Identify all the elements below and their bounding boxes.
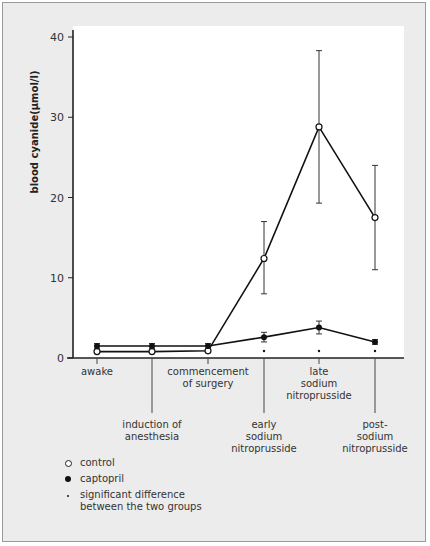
data-point <box>261 255 267 261</box>
y-tick-label: 20 <box>50 192 64 205</box>
significance-marker <box>374 350 376 352</box>
legend-label: control <box>80 457 230 469</box>
data-point <box>94 343 100 349</box>
y-tick-label: 10 <box>50 272 64 285</box>
legend-item-significance: significant difference between the two g… <box>64 489 230 513</box>
data-point <box>316 325 322 331</box>
filled-circle-icon <box>64 473 80 485</box>
small-dot-icon <box>64 489 80 501</box>
y-tick-label: 40 <box>50 31 64 44</box>
legend-label: captopril <box>80 473 230 485</box>
data-point <box>372 215 378 221</box>
significance-marker <box>263 350 265 352</box>
x-tick-label: latesodiumnitroprusside <box>286 366 352 401</box>
data-point <box>205 343 211 349</box>
plot-area <box>73 26 404 358</box>
data-point <box>372 339 378 345</box>
x-tick-label: awake <box>81 366 113 377</box>
x-tick-label: induction ofanesthesia <box>122 419 182 442</box>
significance-marker <box>318 350 320 352</box>
x-tick-label: commencementof surgery <box>167 366 248 389</box>
y-tick-label: 0 <box>57 352 64 365</box>
data-point <box>94 349 100 355</box>
x-tick-label: post-sodiumnitroprusside <box>342 419 408 454</box>
y-axis-label: blood cyanide(µmol/l) <box>29 71 40 194</box>
data-point <box>149 349 155 355</box>
y-tick-label: 30 <box>50 111 64 124</box>
legend-label: significant difference between the two g… <box>80 489 230 513</box>
legend-item-control: control <box>64 457 230 469</box>
x-tick-label: earlysodiumnitroprusside <box>231 419 297 454</box>
data-point <box>261 334 267 340</box>
data-point <box>149 343 155 349</box>
legend: control captopril significant difference… <box>64 457 230 517</box>
data-point <box>316 124 322 130</box>
legend-item-captopril: captopril <box>64 473 230 485</box>
open-circle-icon <box>64 457 80 469</box>
